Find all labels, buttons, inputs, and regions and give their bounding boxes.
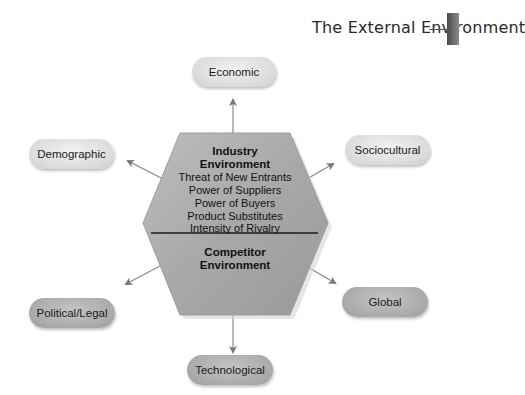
arrow-to-demographic [128,161,165,180]
segment-technological: Technological [187,355,273,385]
segment-political-legal: Political/Legal [29,298,115,328]
industry-item-new-entrants: Threat of New Entrants [170,171,300,184]
competitor-title-1: Competitor [170,246,300,259]
industry-item-rivalry: Intensity of Rivalry [170,222,300,235]
segment-economic: Economic [192,57,276,87]
industry-title-2: Environment [170,158,300,171]
industry-item-buyers: Power of Buyers [170,197,300,210]
industry-item-suppliers: Power of Suppliers [170,184,300,197]
segment-demographic: Demographic [29,139,114,169]
competitor-title-2: Environment [170,259,300,272]
segment-sociocultural: Sociocultural [345,135,430,165]
segment-global: Global [342,287,428,317]
arrow-to-political-legal [126,266,160,284]
industry-title-1: Industry [170,145,300,158]
